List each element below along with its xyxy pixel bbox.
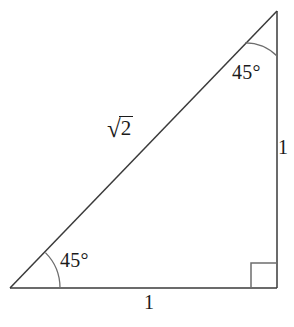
radical-expression: √2 [107, 116, 132, 141]
radical-sign-icon: √ [107, 116, 121, 141]
right-angle-square [251, 263, 277, 288]
angle-arc-top-right [245, 43, 277, 56]
angle-label-top-right: 45° [232, 62, 261, 82]
side-label-hypotenuse: √2 [107, 116, 132, 141]
side-label-bottom-leg: 1 [144, 292, 154, 312]
triangle-diagram-svg [0, 0, 294, 327]
side-label-right-leg: 1 [278, 137, 288, 157]
angle-arc-bottom-left [45, 253, 60, 288]
triangle-figure: 45° 45° 1 1 √2 [0, 0, 294, 327]
hypotenuse-line [10, 11, 277, 288]
radicand-value: 2 [120, 118, 133, 139]
angle-label-bottom-left: 45° [60, 250, 89, 270]
